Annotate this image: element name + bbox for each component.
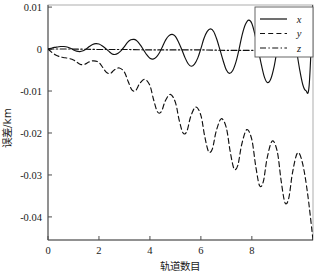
x-tick-label: 4 — [147, 245, 153, 256]
x-tick-label: 8 — [249, 245, 254, 256]
tick-labels-group: 024680.010-0.01-0.02-0.03-0.04 — [20, 2, 254, 256]
y-tick-label: 0 — [37, 44, 42, 55]
legend-label-y: y — [296, 28, 302, 39]
x-axis-title: 轨道数目 — [160, 260, 200, 272]
legend-label-x: x — [296, 14, 302, 25]
chart-figure: 024680.010-0.01-0.02-0.03-0.04 xyz 轨道数目 … — [0, 0, 317, 276]
chart-plot-area: 024680.010-0.01-0.02-0.03-0.04 xyz 轨道数目 … — [0, 0, 317, 276]
y-tick-label: -0.01 — [20, 86, 42, 97]
y-axis-title: 误差/km — [1, 108, 13, 148]
legend-box — [255, 7, 313, 57]
y-tick-label: -0.04 — [20, 212, 43, 223]
x-tick-label: 2 — [96, 245, 101, 256]
x-tick-label: 6 — [198, 245, 203, 256]
x-tick-label: 0 — [45, 245, 50, 256]
chart-legend[interactable]: xyz — [255, 7, 313, 57]
legend-label-z: z — [296, 43, 301, 54]
ticks-group — [48, 7, 252, 240]
y-tick-label: -0.03 — [20, 170, 42, 181]
y-tick-label: 0.01 — [24, 2, 42, 13]
series-line-y — [48, 49, 313, 240]
y-tick-label: -0.02 — [20, 128, 42, 139]
